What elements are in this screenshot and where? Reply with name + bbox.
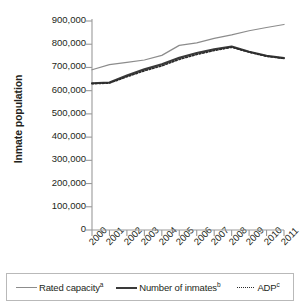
legend-item-footnote-marker: c xyxy=(277,280,280,287)
legend-item-label: ADPc xyxy=(257,282,279,293)
legend-item-footnote-marker: a xyxy=(100,280,103,287)
chart-legend: Rated capacityaNumber of inmatesbADPc xyxy=(6,273,294,301)
legend-item-text: ADP xyxy=(257,282,276,293)
axis-lines xyxy=(92,19,284,230)
legend-item-rated-capacity[interactable]: Rated capacitya xyxy=(16,282,103,293)
x-axis-ticks xyxy=(92,230,284,236)
legend-item-adp[interactable]: ADPc xyxy=(234,282,279,293)
series-line-adp xyxy=(92,47,284,83)
series-line-number-of-inmates xyxy=(92,47,284,84)
legend-item-text: Rated capacity xyxy=(39,282,100,293)
legend-item-label: Rated capacitya xyxy=(39,282,103,293)
data-series-group xyxy=(92,24,284,83)
legend-item-footnote-marker: b xyxy=(217,280,220,287)
series-line-rated-capacity xyxy=(92,24,284,69)
legend-line-swatch-icon xyxy=(116,282,137,292)
chart-plot-area: Inmate population 0100,000200,000300,000… xyxy=(0,0,302,266)
chart-canvas xyxy=(0,0,302,266)
y-axis-ticks xyxy=(86,21,92,230)
legend-line-swatch-icon xyxy=(234,282,255,292)
chart-figure: Inmate population 0100,000200,000300,000… xyxy=(0,0,302,308)
legend-line-swatch-icon xyxy=(16,282,37,292)
legend-item-number-of-inmates[interactable]: Number of inmatesb xyxy=(116,282,220,293)
legend-item-text: Number of inmates xyxy=(139,282,217,293)
legend-item-label: Number of inmatesb xyxy=(139,282,220,293)
